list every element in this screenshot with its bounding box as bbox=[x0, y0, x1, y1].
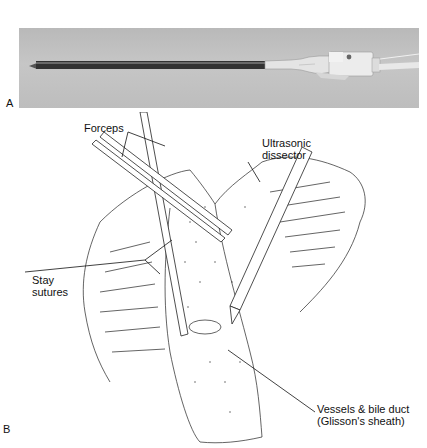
vessels-bile-duct-label-line2: (Glisson's sheath) bbox=[317, 415, 405, 427]
ultrasonic-dissector-photo-icon bbox=[19, 28, 419, 108]
ultrasonic-dissector-label-line1: Ultrasonic bbox=[262, 137, 311, 149]
liver-illustration-icon bbox=[0, 112, 427, 448]
ultrasonic-dissector-label-line2: dissector bbox=[262, 149, 306, 161]
panel-label-a: A bbox=[6, 97, 13, 109]
forceps-label: Forceps bbox=[84, 122, 124, 134]
liver-dissection-illustration: Forceps Ultrasonic dissector Stay suture… bbox=[0, 112, 427, 448]
stay-sutures-label-line2: sutures bbox=[32, 286, 68, 298]
instrument-photo bbox=[19, 28, 419, 108]
panel-label-b: B bbox=[3, 423, 10, 435]
vessels-bile-duct-label-line1: Vessels & bile duct bbox=[317, 403, 409, 415]
stay-sutures-label-line1: Stay bbox=[32, 274, 54, 286]
